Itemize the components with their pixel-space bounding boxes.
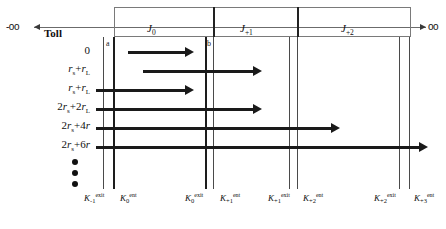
row-bar-5 [96,146,420,149]
interval-separator-2 [297,7,299,37]
axis-label-4-sub: +1 [274,197,281,204]
row-bar-1 [143,70,254,73]
ellipsis-dot-3 [72,181,78,187]
j0-sub: 0 [152,28,156,37]
gridline-k1-exit [289,37,290,189]
row-arrowhead-0-icon [185,47,194,57]
axis-label-5-sup: ent [316,192,323,198]
row-label-0: 0 [20,44,90,56]
row-arrowhead-5-icon [419,142,428,152]
axis-label-2-sub: 0 [191,197,194,204]
axis-label-5-sub: +2 [309,197,316,204]
diagram-canvas: -oo oo J0 J+1 J+2 Toll a b 0 rs+rL rs+rL… [0,0,446,229]
row-arrowhead-3-icon [253,104,262,114]
row-bar-2 [96,89,186,92]
gridline-k3-ent [409,37,410,189]
row-bar-4 [96,127,332,130]
axis-label-1-sub: 0 [126,197,129,204]
j1-sub: +1 [245,28,253,37]
toll-heading: Toll [44,27,62,39]
axis-label-0-sup: exit [95,192,104,198]
axis-label-6-sup: exit [387,192,396,198]
axis-label-3-sub: +1 [226,197,233,204]
axis-label-6-sub: +2 [380,197,387,204]
axis-label-6: K+2exit [374,192,396,204]
axis-label-7-sup: ent [427,192,434,198]
axis-label-7: K+3ent [414,192,434,204]
interval-label-j2: J+2 [341,22,354,37]
row-label-1: rs+rL [20,62,90,77]
axis-label-1: K0ent [120,192,137,204]
axis-label-3-sup: ent [233,192,240,198]
positive-infinity-label: oo [428,21,438,32]
gridline-k1-ent [213,37,214,189]
axis-label-0-sub: -1 [90,197,95,204]
row-bar-0 [128,51,186,54]
interval-label-j1: J+1 [240,22,253,37]
gridline-k2-ent [297,37,298,189]
row-label-2: rs+rL [20,81,90,96]
axis-label-4: K+1exit [268,192,290,204]
interval-separator-1 [213,7,215,37]
negative-infinity-label: -oo [6,21,19,32]
interval-box [114,7,411,37]
row-arrowhead-1-icon [253,66,262,76]
axis-label-4-sup: exit [281,192,290,198]
interval-label-j0: J0 [147,22,156,37]
row-label-4: 2rs+4r [12,119,90,134]
axis-label-0: K-1exit [84,192,104,204]
axis-label-1-sup: ent [129,192,136,198]
axis-label-3: K+1ent [220,192,240,204]
ellipsis-dot-1 [72,159,78,165]
ellipsis-dot-2 [72,170,78,176]
tick-marker-a: a [106,39,110,48]
gridline-k0-ent [113,37,115,189]
axis-label-5: K+2ent [303,192,323,204]
tick-marker-b: b [207,39,211,48]
axis-label-2-sup: exit [194,192,203,198]
row-bar-3 [96,108,254,111]
row-arrowhead-2-icon [185,85,194,95]
j2-sub: +2 [346,28,354,37]
gridline-k2-exit [399,37,400,189]
axis-label-2: K0exit [185,192,203,204]
row-label-3: 2rs+2rL [12,100,90,115]
gridline-k-1-exit [103,37,104,189]
gridline-k0-exit [205,37,207,189]
axis-arrow-left-icon [34,24,40,30]
row-label-5: 2rs+6r [12,138,90,153]
axis-arrow-right-icon [420,24,426,30]
axis-label-7-sub: +3 [420,197,427,204]
row-arrowhead-4-icon [331,123,340,133]
